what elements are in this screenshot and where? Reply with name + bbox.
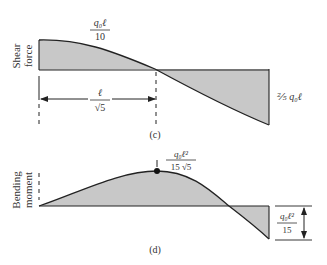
svg-text:15: 15 — [283, 225, 293, 235]
shear-positive-region — [39, 40, 155, 70]
shear-negative-region — [155, 69, 269, 125]
diagram-canvas: Shear force q₀ℓ 10 ⅖ q₀ℓ ℓ √5 (c) Bendin… — [0, 0, 327, 265]
shear-max-label: q₀ℓ 10 — [90, 17, 110, 42]
moment-axis-label: Bending moment — [10, 171, 34, 209]
svg-text:Shear: Shear — [10, 43, 22, 68]
svg-text:force: force — [22, 45, 34, 68]
shear-zero-dimension: ℓ √5 — [39, 72, 156, 128]
moment-positive-region — [39, 171, 229, 206]
svg-text:ℓ: ℓ — [98, 87, 102, 98]
svg-text:moment: moment — [22, 172, 34, 208]
moment-peak-label: q₀ℓ² 15 √5 — [166, 149, 196, 172]
svg-text:q₀ℓ²: q₀ℓ² — [174, 149, 188, 159]
caption-d: (d) — [149, 244, 161, 256]
shear-axis-label: Shear force — [10, 43, 34, 68]
svg-text:15 √5: 15 √5 — [171, 162, 192, 172]
svg-text:Bending: Bending — [10, 171, 22, 209]
moment-end-dimension: q₀ℓ² 15 — [275, 206, 312, 240]
caption-c: (c) — [149, 129, 160, 141]
moment-peak-dot — [154, 168, 160, 174]
shear-force-diagram — [39, 40, 269, 125]
bending-moment-diagram — [39, 160, 269, 239]
svg-text:10: 10 — [95, 31, 105, 42]
svg-text:q₀ℓ²: q₀ℓ² — [280, 211, 294, 221]
svg-text:√5: √5 — [95, 102, 106, 113]
shear-min-label: ⅖ q₀ℓ — [277, 91, 302, 102]
svg-text:q₀ℓ: q₀ℓ — [94, 17, 107, 28]
